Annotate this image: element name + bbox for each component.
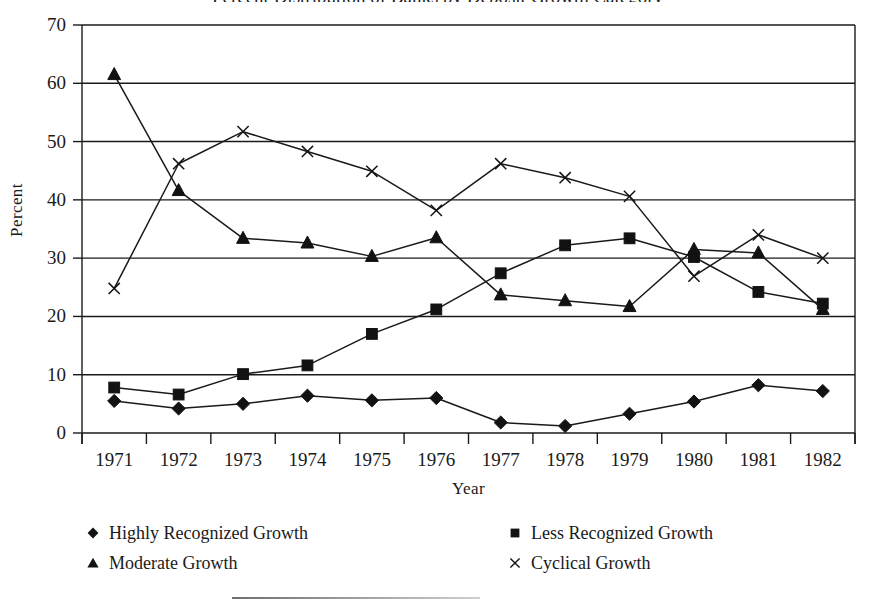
series-moderate-growth-point-1 (172, 184, 185, 196)
series-moderate-growth-point-0 (108, 68, 121, 80)
x-axis-title: Year (82, 479, 855, 499)
series-highly-recognized-growth-point-0 (108, 394, 121, 407)
series-moderate-growth-point-9 (688, 242, 701, 254)
x-tick-label-1982: 1982 (804, 449, 842, 470)
series-cyclical-growth (109, 126, 829, 294)
x-tick-label-1980: 1980 (675, 449, 713, 470)
y-tick-label-70: 70 (47, 14, 66, 35)
y-gridlines (82, 25, 855, 433)
square-marker-icon (508, 526, 522, 540)
x-tick-label-1973: 1973 (224, 449, 262, 470)
x-axis-title-text: Year (452, 479, 485, 498)
series-less-recognized-growth-point-7 (560, 240, 571, 251)
series-highly-recognized-growth-point-8 (623, 407, 636, 420)
legend-entry-cyclical-growth: Cyclical Growth (486, 554, 846, 572)
x-tick-label-1974: 1974 (288, 449, 327, 470)
series-less-recognized-growth-point-3 (302, 360, 313, 371)
series-highly-recognized-growth-point-3 (301, 389, 314, 402)
series-line-cyclical-growth (114, 132, 823, 289)
series-less-recognized-growth-point-2 (238, 369, 249, 380)
series-highly-recognized-growth-point-10 (752, 379, 765, 392)
legend-label: Highly Recognized Growth (109, 524, 308, 542)
y-tick-label-20: 20 (47, 305, 66, 326)
y-tick-label-30: 30 (47, 247, 66, 268)
x-tick-label-1981: 1981 (739, 449, 777, 470)
x-tick-label-1971: 1971 (95, 449, 133, 470)
y-axis-title: Percent (7, 160, 37, 260)
y-axis-ticks: 010203040506070 (47, 14, 82, 443)
series-highly-recognized-growth-point-5 (430, 391, 443, 404)
series-moderate-growth-point-2 (237, 231, 250, 243)
series-less-recognized-growth-point-5 (431, 304, 442, 315)
y-tick-label-60: 60 (47, 72, 66, 93)
series-highly-recognized-growth (108, 379, 830, 433)
series-highly-recognized-growth-point-1 (172, 402, 185, 415)
chart-legend: Highly Recognized GrowthLess Recognized … (86, 518, 846, 578)
x-tick-label-1972: 1972 (160, 449, 198, 470)
x-tick-label-1979: 1979 (611, 449, 649, 470)
series-highly-recognized-growth-point-11 (816, 384, 829, 397)
legend-entry-less-recognized-growth: Less Recognized Growth (486, 524, 846, 542)
cross-marker-icon (508, 556, 522, 570)
y-tick-label-40: 40 (47, 189, 66, 210)
series-moderate-growth-point-5 (430, 231, 443, 243)
series-highly-recognized-growth-point-6 (494, 416, 507, 429)
x-tick-label-1976: 1976 (417, 449, 455, 470)
series-less-recognized-growth-point-8 (624, 233, 635, 244)
series-highly-recognized-growth-point-7 (559, 419, 572, 432)
y-axis-title-text: Percent (7, 183, 26, 237)
series-highly-recognized-growth-point-4 (365, 394, 378, 407)
diamond-marker-icon (86, 526, 100, 540)
series-line-moderate-growth (114, 75, 823, 310)
chart-figure: Percent Distribution of Banks by Deposit… (0, 0, 875, 606)
x-axis-ticks: 1971197219731974197519761977197819791980… (82, 433, 855, 470)
series-less-recognized-growth-point-0 (109, 382, 120, 393)
series-moderate-growth-point-6 (494, 288, 507, 300)
x-tick-label-1975: 1975 (353, 449, 391, 470)
triangle-marker-icon (86, 556, 100, 570)
series-less-recognized-growth-point-4 (366, 329, 377, 340)
series-less-recognized-growth-point-10 (753, 287, 764, 298)
y-tick-label-0: 0 (57, 422, 67, 443)
y-tick-label-50: 50 (47, 131, 66, 152)
series-line-highly-recognized-growth (114, 385, 823, 426)
legend-entry-moderate-growth: Moderate Growth (86, 554, 486, 572)
line-chart-plot: 0102030405060701971197219731974197519761… (0, 0, 875, 606)
legend-label: Moderate Growth (109, 554, 237, 572)
bottom-divider-rule (232, 597, 480, 599)
legend-label: Less Recognized Growth (531, 524, 713, 542)
legend-entry-highly-recognized-growth: Highly Recognized Growth (86, 524, 486, 542)
x-tick-label-1978: 1978 (546, 449, 584, 470)
y-tick-label-10: 10 (47, 364, 66, 385)
legend-label: Cyclical Growth (531, 554, 650, 572)
series-highly-recognized-growth-point-2 (236, 397, 249, 410)
series-less-recognized-growth-point-6 (495, 268, 506, 279)
series-highly-recognized-growth-point-9 (687, 395, 700, 408)
series-moderate-growth (108, 68, 829, 315)
x-tick-label-1977: 1977 (482, 449, 520, 470)
series-less-recognized-growth-point-1 (173, 389, 184, 400)
